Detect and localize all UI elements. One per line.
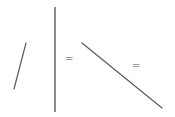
diagonal-segment <box>82 43 162 108</box>
diagram-canvas <box>0 0 175 117</box>
equals-sign-right: = <box>132 61 140 71</box>
slanted-segment <box>14 43 26 89</box>
equals-sign-left: = <box>65 54 73 64</box>
